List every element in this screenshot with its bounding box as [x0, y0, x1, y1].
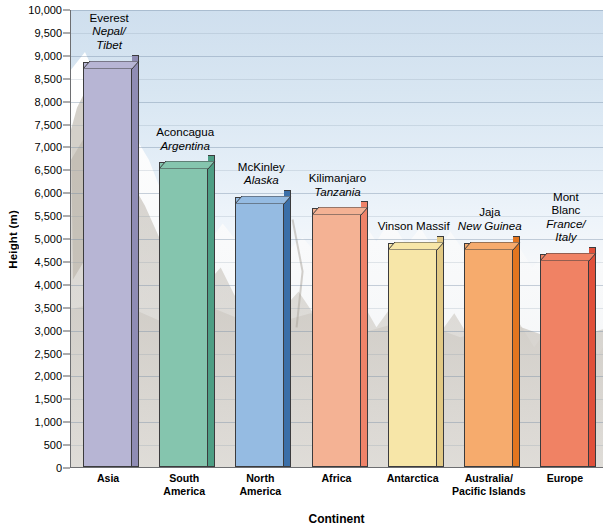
- y-axis-tick-mark: [63, 32, 70, 33]
- peak-name: Everest: [70, 11, 156, 25]
- y-axis-tick-mark: [63, 445, 70, 446]
- y-axis-tick-mark: [63, 468, 70, 469]
- y-axis-tick-label: 4,500: [34, 256, 62, 268]
- bar-antarctica[interactable]: [388, 243, 444, 467]
- plot-area: EverestNepal/TibetAconcaguaArgentinaMcKi…: [70, 10, 603, 468]
- bar-front-face: [540, 254, 589, 467]
- x-axis-tick-label: Europe: [517, 472, 609, 485]
- x-axis-tick-line: Europe: [517, 472, 609, 485]
- peak-location: Tanzania: [290, 185, 384, 199]
- peak-location: Italy: [519, 230, 603, 244]
- peak-name: Mont: [519, 190, 603, 204]
- y-axis-tick-label: 2,000: [34, 370, 62, 382]
- bar-front-face: [83, 62, 132, 467]
- y-axis-tick-mark: [63, 353, 70, 354]
- bar-front-face: [388, 243, 437, 467]
- y-axis-tick-label: 5,500: [34, 210, 62, 222]
- x-axis-tick-line: Pacific Islands: [441, 485, 537, 498]
- gridline: [71, 56, 603, 57]
- y-axis-tick-mark: [63, 10, 70, 11]
- y-axis-tick-mark: [63, 330, 70, 331]
- y-axis-tick-mark: [63, 170, 70, 171]
- bar-top-face: [464, 236, 521, 244]
- bar-north-america[interactable]: [235, 197, 291, 467]
- bar-europe[interactable]: [540, 254, 596, 467]
- peak-name: Kilimanjaro: [290, 171, 384, 185]
- y-axis-tick-mark: [63, 55, 70, 56]
- bar-callout-label: EverestNepal/Tibet: [70, 11, 156, 52]
- bar-side-face: [589, 247, 596, 467]
- y-axis-tick-label: 10,000: [28, 4, 62, 16]
- bar-side-face: [208, 155, 215, 467]
- x-axis-ticks: AsiaSouthAmericaNorthAmericaAfricaAntarc…: [70, 472, 603, 512]
- y-axis-tick-mark: [63, 216, 70, 217]
- y-axis-tick-label: 6,000: [34, 187, 62, 199]
- y-axis-tick-label: 4,000: [34, 279, 62, 291]
- x-axis-title: Continent: [70, 512, 603, 526]
- gridline: [71, 102, 603, 103]
- y-axis-tick-mark: [63, 193, 70, 194]
- bar-top-face: [312, 201, 369, 209]
- y-axis-tick-label: 7,500: [34, 119, 62, 131]
- bar-front-face: [159, 162, 208, 467]
- y-axis-tick-label: 3,000: [34, 325, 62, 337]
- bar-top-face: [388, 236, 445, 244]
- y-axis-tick-mark: [63, 307, 70, 308]
- bar-africa[interactable]: [312, 208, 368, 467]
- y-axis-tick-label: 500: [44, 439, 62, 451]
- peak-location: Nepal/: [70, 24, 156, 38]
- y-axis-tick-mark: [63, 376, 70, 377]
- bar-callout-label: KilimanjaroTanzania: [290, 171, 384, 198]
- bar-callout-label: AconcaguaArgentina: [138, 125, 232, 152]
- peak-location: Argentina: [138, 139, 232, 153]
- bar-front-face: [312, 208, 361, 467]
- y-axis-title-text: Height (m): [7, 210, 19, 269]
- y-axis-tick-mark: [63, 399, 70, 400]
- y-axis-tick-label: 1,500: [34, 393, 62, 405]
- bar-chart: Height (m) 10,0009,5009,0008,5008,0007,5…: [0, 0, 609, 532]
- y-axis-tick-label: 7,000: [34, 141, 62, 153]
- bar-callout-label: MontBlancFrance/Italy: [519, 190, 603, 244]
- peak-location: France/: [519, 217, 603, 231]
- bar-side-face: [361, 201, 368, 467]
- bar-side-face: [437, 236, 444, 467]
- y-axis-tick-label: 5,000: [34, 233, 62, 245]
- peak-name: Blanc: [519, 203, 603, 217]
- y-axis-tick-label: 8,000: [34, 96, 62, 108]
- bar-south-america[interactable]: [159, 162, 215, 467]
- y-axis-tick-mark: [63, 78, 70, 79]
- y-axis-tick-label: 9,000: [34, 50, 62, 62]
- bar-top-face: [83, 55, 140, 63]
- y-axis-tick-label: 6,500: [34, 164, 62, 176]
- bar-side-face: [513, 236, 520, 467]
- peak-location: Tibet: [70, 38, 156, 52]
- bar-front-face: [235, 197, 284, 467]
- x-axis-tick-line: America: [212, 485, 308, 498]
- y-axis-tick-mark: [63, 239, 70, 240]
- bar-front-face: [464, 243, 513, 467]
- bar-side-face: [284, 190, 291, 467]
- y-axis-tick-label: 3,500: [34, 302, 62, 314]
- bar-top-face: [235, 190, 292, 198]
- y-axis-tick-label: 8,500: [34, 73, 62, 85]
- y-axis-tick-mark: [63, 261, 70, 262]
- y-axis-tick-mark: [63, 124, 70, 125]
- y-axis-tick-mark: [63, 147, 70, 148]
- y-axis-tick-label: 9,500: [34, 27, 62, 39]
- bar-asia[interactable]: [83, 62, 139, 467]
- bar-top-face: [540, 247, 597, 255]
- peak-name: Aconcagua: [138, 125, 232, 139]
- y-axis-ticks: 10,0009,5009,0008,5008,0007,5007,0006,50…: [20, 0, 70, 478]
- y-axis-tick-label: 2,500: [34, 348, 62, 360]
- y-axis-tick-mark: [63, 422, 70, 423]
- bar-australia-pacific-islands[interactable]: [464, 243, 520, 467]
- y-axis-tick-mark: [63, 284, 70, 285]
- y-axis-tick-label: 1,000: [34, 416, 62, 428]
- bar-top-face: [159, 155, 216, 163]
- y-axis-tick-mark: [63, 101, 70, 102]
- gridline: [71, 79, 603, 80]
- bar-side-face: [132, 55, 139, 467]
